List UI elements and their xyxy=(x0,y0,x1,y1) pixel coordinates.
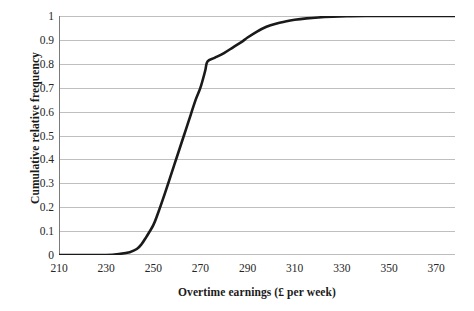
x-axis-tick-labels: 210230250270290310330350370 xyxy=(59,261,455,277)
x-tick-label: 310 xyxy=(275,261,315,275)
x-tick-label: 370 xyxy=(416,261,456,275)
x-tick-label: 210 xyxy=(39,261,79,275)
x-axis-title: Overtime earnings (£ per week) xyxy=(59,286,455,298)
x-tick-label: 270 xyxy=(180,261,220,275)
y-tick-label: 0.9 xyxy=(28,35,54,45)
y-tick-label: 0.2 xyxy=(28,202,54,212)
y-tick-label: 0.6 xyxy=(28,107,54,117)
x-tick-label: 250 xyxy=(133,261,173,275)
gridlines xyxy=(59,17,455,232)
y-tick-label: 0.5 xyxy=(28,131,54,141)
cumulative-frequency-chart: Cumulative relative frequency 00.10.20.3… xyxy=(0,0,474,311)
y-tick-label: 0 xyxy=(28,250,54,260)
y-tick-label: 0.7 xyxy=(28,83,54,93)
y-tick-label: 0.8 xyxy=(28,59,54,69)
plot-area xyxy=(59,16,455,255)
y-tick-label: 1 xyxy=(28,11,54,21)
x-tick-label: 330 xyxy=(322,261,362,275)
plot-svg xyxy=(59,16,455,255)
y-tick-label: 0.3 xyxy=(28,178,54,188)
x-tick-label: 350 xyxy=(369,261,409,275)
x-tick-label: 290 xyxy=(228,261,268,275)
x-tick-label: 230 xyxy=(86,261,126,275)
y-tick-label: 0.1 xyxy=(28,226,54,236)
data-series-line xyxy=(59,16,455,255)
y-tick-label: 0.4 xyxy=(28,154,54,164)
